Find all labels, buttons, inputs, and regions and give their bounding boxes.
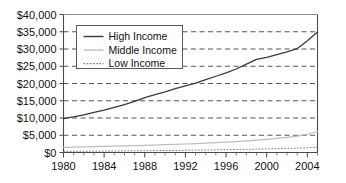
- legend-label-middle-income: Middle Income: [109, 44, 177, 56]
- x-tick-label: 1980: [51, 160, 75, 172]
- y-tick-label: $40,000: [17, 9, 57, 21]
- y-tick-label: $10,000: [17, 112, 57, 124]
- x-axis-ticks: [64, 153, 318, 158]
- y-tick-label: $20,000: [17, 78, 57, 90]
- y-tick-label: $35,000: [17, 26, 57, 38]
- x-tick-label: 2000: [254, 160, 278, 172]
- legend-label-low-income: Low Income: [109, 57, 166, 69]
- y-tick-label: $0: [44, 147, 56, 159]
- y-tick-label: $5,000: [23, 129, 57, 141]
- x-tick-label: 2004: [295, 160, 319, 172]
- legend-label-high-income: High Income: [109, 30, 168, 42]
- x-tick-label: 1992: [173, 160, 197, 172]
- x-tick-label: 1996: [214, 160, 238, 172]
- series-line-low-income: [64, 147, 318, 151]
- x-tick-label: 1984: [92, 160, 116, 172]
- x-axis-labels: 1980198419881992199620002004: [51, 160, 319, 172]
- chart-canvas: $0$5,000$10,000$15,000$20,000$25,000$30,…: [0, 0, 346, 183]
- income-trend-chart: $0$5,000$10,000$15,000$20,000$25,000$30,…: [0, 0, 346, 183]
- y-tick-label: $15,000: [17, 95, 57, 107]
- y-axis-labels: $0$5,000$10,000$15,000$20,000$25,000$30,…: [17, 9, 57, 159]
- y-tick-label: $30,000: [17, 43, 57, 55]
- y-axis-ticks: [60, 15, 64, 153]
- series-line-middle-income: [64, 131, 318, 147]
- x-tick-label: 1988: [133, 160, 157, 172]
- y-tick-label: $25,000: [17, 60, 57, 72]
- chart-legend: High IncomeMiddle IncomeLow Income: [77, 26, 183, 70]
